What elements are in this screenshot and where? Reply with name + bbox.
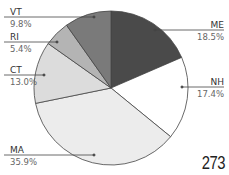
leader-dot-vt [93,16,95,18]
label-vt: VT [10,7,22,17]
value-me: 18.5% [197,32,224,42]
pie-chart [0,0,229,175]
value-nh: 17.4% [197,89,224,99]
leader-dot-nh [181,86,183,88]
value-ma: 35.9% [10,157,37,167]
label-me: ME [211,20,224,30]
label-ct: CT [10,65,22,75]
leader-dot-ct [43,74,45,76]
value-ct: 13.0% [10,77,37,87]
label-ma: MA [10,145,24,155]
page-number: 273 [201,152,225,174]
leader-dot-ri [56,41,58,43]
label-ri: RI [10,32,19,42]
pie-slices [34,11,188,165]
leader-dot-ma [93,154,95,156]
value-ri: 5.4% [10,44,32,54]
label-nh: NH [211,77,225,87]
value-vt: 9.8% [10,19,32,29]
leader-dot-me [154,29,156,31]
